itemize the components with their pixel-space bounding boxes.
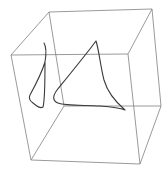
figure-canvas (0, 0, 168, 170)
cube-edge (152, 9, 161, 106)
cube-edge (11, 55, 31, 160)
cube-edge (11, 54, 128, 55)
cube-edge (49, 12, 64, 106)
cube-edge (11, 12, 49, 55)
cube-curves (29, 41, 125, 110)
cube-edge (49, 9, 152, 12)
cube-edge (31, 160, 140, 164)
cube-edge (128, 9, 152, 54)
left-loop-curve (29, 43, 46, 108)
right-cusp-curve (54, 41, 125, 110)
cube-edges (11, 9, 161, 164)
cube-edge (31, 106, 64, 160)
cube-edge (128, 54, 140, 164)
cube-edge (140, 106, 161, 164)
cube-diagram (0, 0, 168, 170)
